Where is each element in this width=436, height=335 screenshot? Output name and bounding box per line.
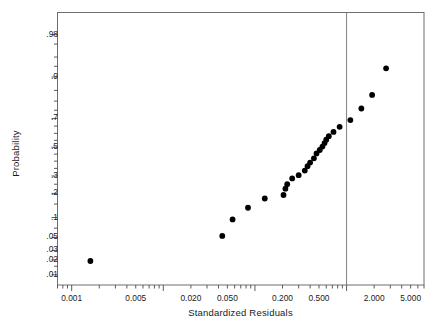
data-point bbox=[262, 196, 268, 202]
x-axis-title: Standardized Residuals bbox=[57, 307, 424, 318]
probability-plot: Probability Standardized Residuals .98.9… bbox=[0, 0, 436, 335]
y-tick-label: .98 bbox=[46, 29, 58, 39]
data-point bbox=[331, 129, 337, 135]
y-tick-label: .02 bbox=[46, 254, 58, 264]
x-tick-label: 0.500 bbox=[294, 293, 344, 303]
y-axis-title: Probability bbox=[10, 109, 21, 199]
y-tick-label: .2 bbox=[51, 187, 58, 197]
plot-canvas bbox=[0, 0, 436, 335]
x-axis-ticks bbox=[58, 285, 425, 291]
data-point bbox=[88, 258, 94, 264]
series-standardized-residuals bbox=[88, 65, 389, 264]
y-tick-label: .05 bbox=[46, 231, 58, 241]
y-tick-label: .5 bbox=[51, 141, 58, 151]
data-point bbox=[245, 205, 251, 211]
y-tick-label: .01 bbox=[46, 269, 58, 279]
x-tick-label: 0.001 bbox=[47, 293, 97, 303]
x-tick-label: 0.005 bbox=[111, 293, 161, 303]
data-point bbox=[326, 133, 332, 139]
data-point bbox=[337, 124, 343, 130]
data-point bbox=[289, 175, 295, 181]
data-point bbox=[358, 106, 364, 112]
data-point bbox=[311, 155, 317, 161]
y-tick-label: .3 bbox=[51, 170, 58, 180]
data-point bbox=[284, 181, 290, 187]
x-tick-label: 0.050 bbox=[202, 293, 252, 303]
data-point bbox=[383, 65, 389, 71]
y-tick-label: .9 bbox=[51, 71, 58, 81]
x-tick-label: 5.000 bbox=[386, 293, 436, 303]
y-tick-label: .7 bbox=[51, 112, 58, 122]
data-point bbox=[281, 192, 287, 198]
data-point bbox=[219, 233, 225, 239]
plot-frame bbox=[58, 13, 425, 286]
y-tick-label: .1 bbox=[51, 212, 58, 222]
data-point bbox=[296, 172, 302, 178]
data-point bbox=[369, 92, 375, 98]
data-point bbox=[347, 117, 353, 123]
data-point bbox=[230, 217, 236, 223]
